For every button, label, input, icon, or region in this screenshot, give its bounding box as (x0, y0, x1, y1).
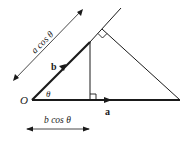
a-cos-theta-arrow-end-icon (77, 9, 83, 16)
b-cos-theta-label: b cos θ (44, 115, 71, 125)
vector-projection-diagram: O θ b a b cos θ a cos θ (0, 0, 191, 146)
b-direction-extension-line (90, 8, 121, 42)
vector-a-arrow-icon (104, 97, 112, 103)
b-cos-theta-arrow-start-icon (26, 127, 33, 132)
a-cos-theta-arrow-start-icon (13, 74, 19, 81)
right-angle-marker-b (98, 34, 107, 39)
vector-b-label: b (51, 61, 57, 72)
vector-a-label: a (105, 106, 110, 117)
b-cos-theta-arrow-end-icon (83, 127, 90, 132)
perpendicular-a-to-b (102, 29, 180, 100)
origin-label: O (20, 94, 28, 106)
a-cos-theta-label: a cos θ (29, 29, 55, 55)
a-cos-theta-dimension-line (14, 10, 82, 80)
angle-label: θ (46, 89, 51, 99)
